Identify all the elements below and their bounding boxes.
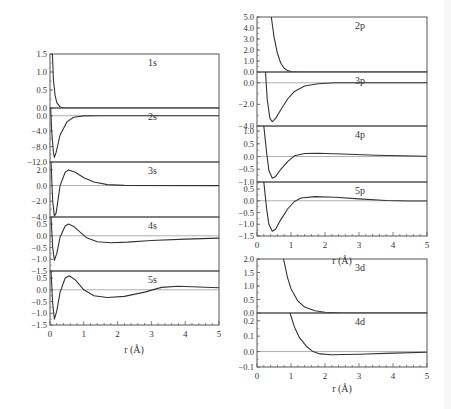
x-axis: 012345 (255, 232, 430, 250)
panel-4s: 0.50.0−0.5−1.0−1.54s (32, 217, 219, 276)
svg-text:−1.0: −1.0 (32, 308, 47, 318)
svg-text:1.5: 1.5 (36, 49, 47, 59)
svg-text:3.0: 3.0 (243, 34, 254, 44)
svg-text:0: 0 (255, 240, 260, 250)
orbital-label-5s: 5s (148, 274, 157, 285)
d-orbital-stack: 2.01.51.00.50.03d0.20.10.0−0.14d012345 (239, 254, 430, 381)
svg-text:0: 0 (48, 329, 53, 339)
x-axis-label-left: r (Å) (124, 344, 144, 356)
svg-text:−1.0: −1.0 (239, 219, 254, 229)
svg-text:−1.5: −1.5 (239, 231, 254, 241)
wavefunction-curve-3s (51, 162, 219, 216)
svg-text:3: 3 (357, 371, 362, 381)
p-d-orbital-stacks: 5.04.03.02.01.00.02p0.0−2.0−4.03p1.00.50… (239, 12, 430, 381)
svg-text:0.0: 0.0 (36, 111, 47, 121)
svg-text:1.0: 1.0 (243, 126, 254, 136)
wavefunction-curve-4p (264, 126, 427, 178)
s-orbital-stack: 1.51.00.50.01s0.0−4.0−8.0−12.02s2.00.0−2… (27, 49, 221, 339)
x-axis: 012345 (255, 363, 430, 381)
svg-text:2: 2 (323, 371, 328, 381)
svg-text:0.2: 0.2 (243, 316, 254, 326)
panel-2p: 5.04.03.02.01.00.02p (243, 12, 427, 77)
svg-text:4.0: 4.0 (243, 23, 254, 33)
orbital-label-3d: 3d (355, 262, 365, 273)
orbital-label-4d: 4d (355, 316, 365, 327)
svg-text:0.5: 0.5 (243, 184, 254, 194)
svg-text:4: 4 (391, 371, 396, 381)
wavefunction-curve-3p (266, 72, 428, 122)
svg-text:1.0: 1.0 (243, 56, 254, 66)
svg-text:1: 1 (289, 371, 294, 381)
wavefunction-curve-1s (52, 54, 219, 108)
panel-4p: 1.00.50.0−0.5−1.04p (239, 126, 427, 187)
svg-text:−0.5: −0.5 (32, 243, 47, 253)
panel-3p: 0.0−2.0−4.03p (239, 72, 427, 131)
svg-text:−1.5: −1.5 (32, 320, 47, 330)
panel-4d: 0.20.10.0−0.14d (239, 313, 427, 372)
panel-5p: 0.50.0−0.5−1.0−1.55p (239, 182, 427, 241)
y-axis-3d: 2.01.51.00.50.0 (243, 254, 260, 318)
svg-text:4: 4 (183, 329, 188, 339)
svg-text:2.0: 2.0 (36, 165, 47, 175)
svg-text:0.5: 0.5 (36, 273, 47, 283)
svg-text:4: 4 (391, 240, 396, 250)
svg-text:1: 1 (289, 240, 294, 250)
svg-text:0.0: 0.0 (243, 196, 254, 206)
svg-text:−2.0: −2.0 (239, 99, 254, 109)
svg-text:0.5: 0.5 (243, 295, 254, 305)
svg-text:0.0: 0.0 (36, 181, 47, 191)
svg-text:5.0: 5.0 (243, 12, 254, 22)
orbital-label-3p: 3p (355, 75, 365, 86)
wavefunction-curve-5s (51, 271, 219, 319)
orbital-label-2s: 2s (148, 111, 157, 122)
svg-text:0.0: 0.0 (243, 67, 254, 77)
x-axis: 012345 (48, 321, 222, 339)
svg-text:1.5: 1.5 (243, 268, 254, 278)
y-axis-2s: 0.0−4.0−8.0−12.0 (27, 108, 53, 167)
svg-text:−2.0: −2.0 (32, 196, 47, 206)
panel-3s: 2.00.0−2.0−4.03s (32, 162, 219, 222)
svg-text:5: 5 (425, 371, 430, 381)
panel-2s: 0.0−4.0−8.0−12.02s (27, 108, 219, 167)
panel-1s: 1.51.00.50.01s (36, 49, 219, 113)
svg-text:5: 5 (217, 329, 222, 339)
svg-text:3: 3 (357, 240, 362, 250)
svg-text:5: 5 (425, 240, 430, 250)
x-axis-label-right-bottom: r (Å) (332, 383, 352, 395)
svg-text:1.0: 1.0 (243, 281, 254, 291)
svg-text:2.0: 2.0 (243, 45, 254, 55)
orbital-label-2p: 2p (355, 20, 365, 31)
svg-text:0.5: 0.5 (243, 139, 254, 149)
svg-text:−0.5: −0.5 (32, 297, 47, 307)
x-axis-label-right-top: r (Å) (332, 255, 352, 267)
p-orbital-stack: 5.04.03.02.01.00.02p0.0−2.0−4.03p1.00.50… (239, 12, 430, 250)
svg-text:2.0: 2.0 (243, 254, 254, 264)
wavefunction-curve-5p (264, 182, 427, 231)
svg-text:1: 1 (82, 329, 87, 339)
orbital-label-4s: 4s (148, 220, 157, 231)
svg-text:−0.5: −0.5 (239, 208, 254, 218)
wavefunction-curve-2p (271, 17, 427, 72)
orbital-label-1s: 1s (148, 57, 157, 68)
svg-text:−0.1: −0.1 (239, 362, 254, 372)
svg-text:3: 3 (149, 329, 154, 339)
svg-text:0.5: 0.5 (36, 85, 47, 95)
svg-text:0: 0 (255, 371, 260, 381)
svg-text:0.5: 0.5 (36, 219, 47, 229)
svg-text:2: 2 (323, 240, 328, 250)
radial-wavefunction-figure: 1.51.00.50.01s0.0−4.0−8.0−12.02s2.00.0−2… (0, 0, 451, 409)
orbital-label-5p: 5p (355, 185, 365, 196)
orbital-label-3s: 3s (148, 165, 157, 176)
orbital-label-4p: 4p (355, 129, 365, 140)
svg-text:0.0: 0.0 (243, 152, 254, 162)
svg-text:−8.0: −8.0 (32, 142, 47, 152)
panel-5s: 0.50.0−0.5−1.0−1.55s (32, 271, 219, 330)
wavefunction-curve-4s (51, 217, 219, 260)
svg-text:0.0: 0.0 (36, 285, 47, 295)
svg-text:1.0: 1.0 (36, 67, 47, 77)
svg-text:−1.0: −1.0 (32, 254, 47, 264)
svg-text:−4.0: −4.0 (32, 126, 47, 136)
svg-text:0.0: 0.0 (36, 231, 47, 241)
svg-text:0.1: 0.1 (243, 331, 254, 341)
y-axis-2p: 5.04.03.02.01.00.0 (243, 12, 260, 77)
